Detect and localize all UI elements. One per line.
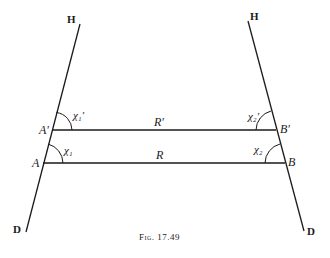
label-r: R: [156, 149, 163, 161]
label-a-prime: A′: [39, 124, 49, 136]
label-a: A: [32, 157, 39, 169]
label-chi2: χ₂: [254, 144, 263, 155]
arc-chi1: [48, 144, 63, 163]
arc-chi2: [265, 144, 280, 163]
label-chi1-prime: χ₁′: [73, 110, 84, 121]
label-chi1: χ₁: [64, 145, 73, 156]
label-chi2-prime: χ₂′: [248, 111, 259, 122]
label-right-d: D: [307, 226, 315, 237]
label-b-prime: B′: [280, 123, 290, 135]
figure-caption: Fig. 17.49: [139, 233, 180, 242]
label-b: B: [288, 156, 295, 168]
arc-chi1-prime: [57, 113, 73, 131]
label-right-h: H: [250, 11, 259, 22]
figure-17-49: H H D D A′ A B′ B R′ R χ₁′ χ₁ χ₂′ χ₂ Fig…: [0, 0, 330, 258]
label-left-d: D: [13, 224, 21, 235]
label-left-h: H: [67, 14, 76, 25]
label-r-prime: R′: [154, 116, 164, 128]
